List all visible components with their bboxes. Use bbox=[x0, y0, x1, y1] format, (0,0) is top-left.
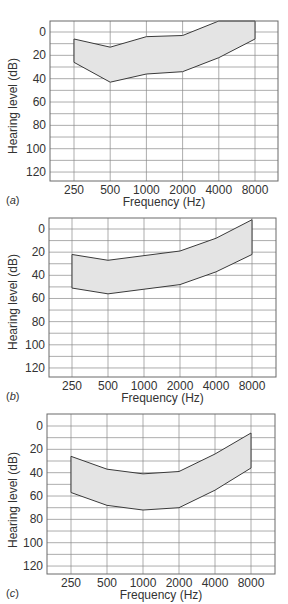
y-tick-label: 0 bbox=[13, 419, 43, 433]
y-axis-title: Hearing level (dB) bbox=[6, 452, 20, 548]
panel-label: (c) bbox=[6, 587, 19, 599]
hearing-range-band bbox=[71, 433, 251, 510]
plot-area bbox=[0, 0, 288, 604]
audiogram-panel-c: 0204060801001202505001000200040008000Fre… bbox=[0, 0, 288, 604]
x-tick-label: 8000 bbox=[231, 576, 271, 590]
x-axis-title: Frequency (Hz) bbox=[101, 588, 221, 602]
y-tick-label: 120 bbox=[13, 559, 43, 573]
x-tick-label: 250 bbox=[51, 576, 91, 590]
